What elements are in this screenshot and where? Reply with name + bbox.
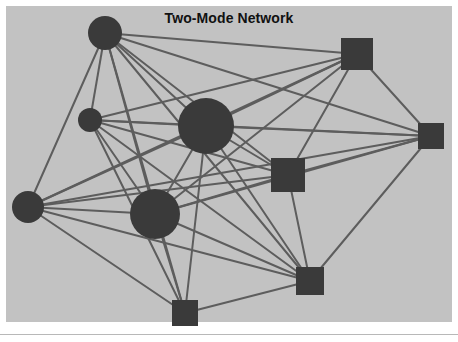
chart-title: Two-Mode Network	[165, 10, 294, 26]
network-node-circle[interactable]	[78, 108, 102, 132]
network-node-circle[interactable]	[130, 189, 180, 239]
network-node-square[interactable]	[271, 158, 305, 192]
network-plot-area: Two-Mode Network	[0, 0, 458, 342]
network-node-circle[interactable]	[12, 191, 44, 223]
network-node-circle[interactable]	[88, 16, 122, 50]
network-node-circle[interactable]	[178, 98, 234, 154]
network-node-square[interactable]	[172, 300, 198, 326]
footer-divider	[0, 334, 458, 335]
plot-background	[6, 6, 452, 322]
network-node-square[interactable]	[418, 123, 444, 149]
network-figure: Two-Mode Network	[0, 0, 458, 342]
network-node-square[interactable]	[341, 38, 373, 70]
network-node-square[interactable]	[296, 267, 324, 295]
network-canvas: Two-Mode Network	[0, 0, 458, 342]
